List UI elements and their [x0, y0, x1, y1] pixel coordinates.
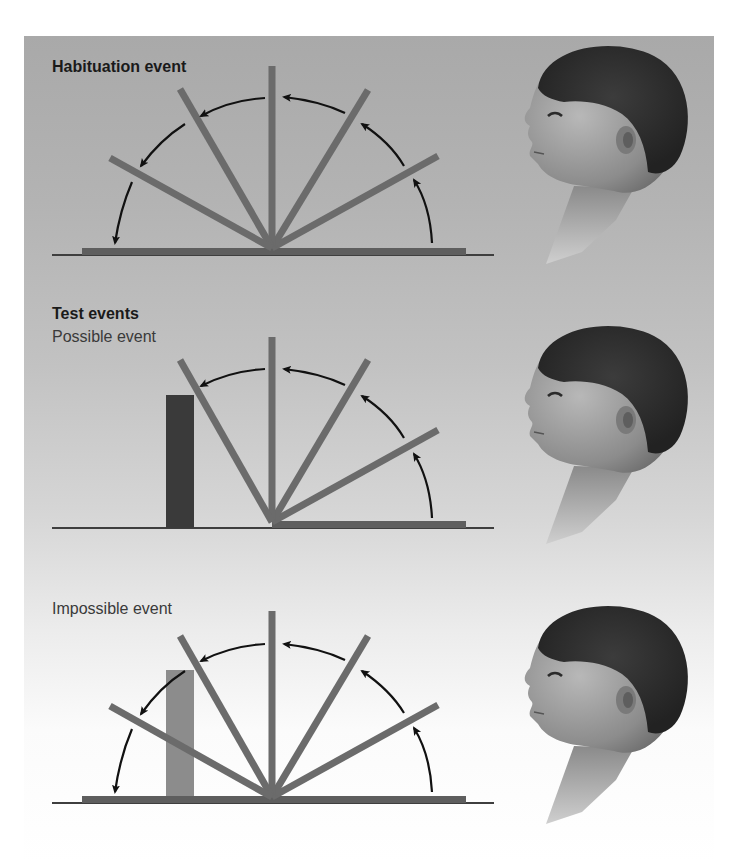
- screen-positions: [110, 66, 438, 248]
- impossible-diagram: [52, 611, 494, 803]
- possible-diagram: [52, 337, 494, 528]
- infant-head-impossible: [525, 606, 688, 824]
- diagram-canvas: [0, 0, 735, 862]
- habituation-diagram: [52, 66, 494, 255]
- screen-base: [272, 521, 466, 528]
- phantom-box: [166, 670, 194, 796]
- solid-box: [166, 395, 194, 528]
- infant-head-possible: [525, 326, 688, 544]
- infant-head-habituation: [525, 46, 688, 264]
- screen-positions: [110, 611, 438, 797]
